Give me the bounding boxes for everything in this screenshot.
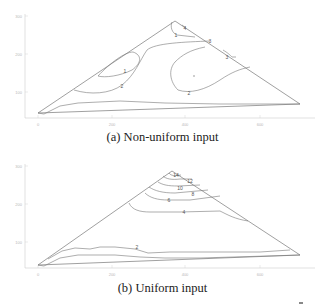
y-tick-label: 200 [15,52,22,57]
contour-lines [38,173,300,266]
contour-lines [38,22,300,114]
contour-label: 1 [124,68,127,74]
contour-label: 3 [226,54,229,60]
caption-a: (a) Non-uniform input [0,130,325,145]
x-tick-label: 600 [257,272,264,277]
chart-panel-a: 300 200 100 0 200 400 600 4 1 3 3 1 2 2 … [0,0,325,150]
contour-plot-a: 300 200 100 0 200 400 600 4 1 3 3 1 2 2 [0,0,325,150]
contour-label: 3 [209,38,212,44]
y-tick-label: 200 [15,202,22,207]
contour-label: 8 [192,191,195,197]
x-tick-label: 600 [257,122,264,127]
contour-label: 2 [121,83,124,89]
x-tick-label: 400 [182,272,189,277]
contour-label: 4 [184,25,187,31]
x-tick-label: 0 [37,122,40,127]
contour-label: 1 [175,32,178,38]
x-tick-label: 200 [109,272,116,277]
contour-label: 6 [168,197,171,203]
contour-label: 12 [187,178,193,184]
chart-panel-b: 300 200 100 0 200 400 600 14 12 10 8 6 4… [0,150,325,306]
critical-point-marker [193,75,194,76]
page-artifact-mark [299,302,303,304]
contour-label: 10 [177,185,183,191]
x-tick-label: 400 [182,122,189,127]
y-tick-label: 300 [15,164,22,169]
caption-b: (b) Uniform input [0,281,325,296]
y-tick-label: 300 [15,14,22,19]
contour-label: 2 [188,90,191,96]
x-tick-label: 200 [109,122,116,127]
y-tick-label: 100 [15,90,22,95]
triangle-domain [38,21,300,113]
contour-label: 4 [183,209,186,215]
contour-label: 14 [173,172,179,178]
contour-label: 2 [136,244,139,250]
y-tick-label: 100 [15,240,22,245]
x-tick-label: 0 [37,272,40,277]
triangle-domain [38,171,300,265]
